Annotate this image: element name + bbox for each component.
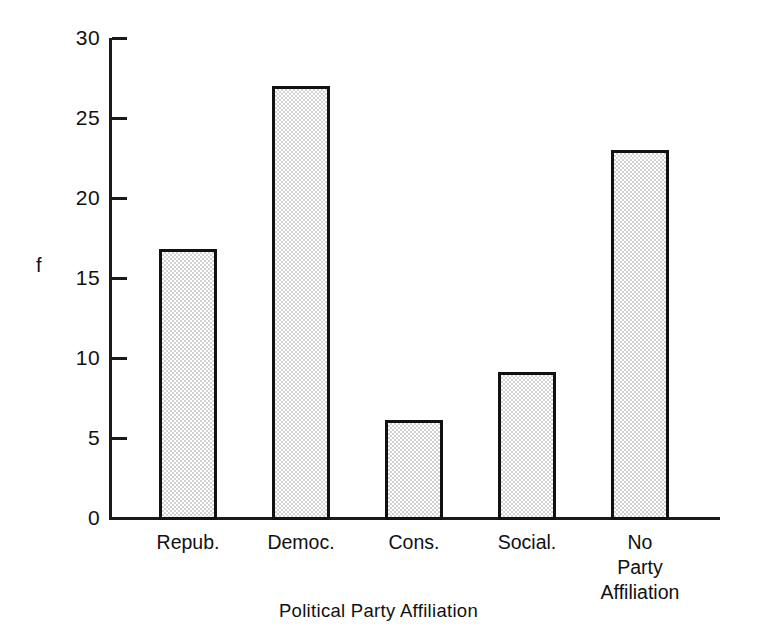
x-axis-title: Political Party Affiliation <box>0 600 757 622</box>
bar <box>272 86 330 520</box>
bar <box>385 420 443 520</box>
bar-chart: f 051015202530 Repub.Democ.Cons.Social.N… <box>0 0 757 640</box>
y-axis-tick-label: 15 <box>54 267 100 288</box>
bar <box>159 249 217 520</box>
y-axis-tick <box>112 517 127 520</box>
y-axis-tick-label: 25 <box>54 107 100 128</box>
y-axis-title: f <box>36 255 42 275</box>
y-axis-tick-label: 30 <box>54 27 100 48</box>
y-axis-tick <box>112 277 127 280</box>
y-axis-tick-label: 5 <box>54 427 100 448</box>
y-axis-tick-label: 0 <box>54 507 100 528</box>
y-axis-tick-label: 20 <box>54 187 100 208</box>
bar <box>498 372 556 520</box>
y-axis-tick <box>112 357 127 360</box>
y-axis-tick <box>112 437 127 440</box>
y-axis-tick <box>112 197 127 200</box>
x-axis-category-label: No Party Affiliation <box>570 530 710 605</box>
y-axis-tick <box>112 37 127 40</box>
y-axis-tick <box>112 117 127 120</box>
bar <box>611 150 669 520</box>
y-axis-tick-label: 10 <box>54 347 100 368</box>
